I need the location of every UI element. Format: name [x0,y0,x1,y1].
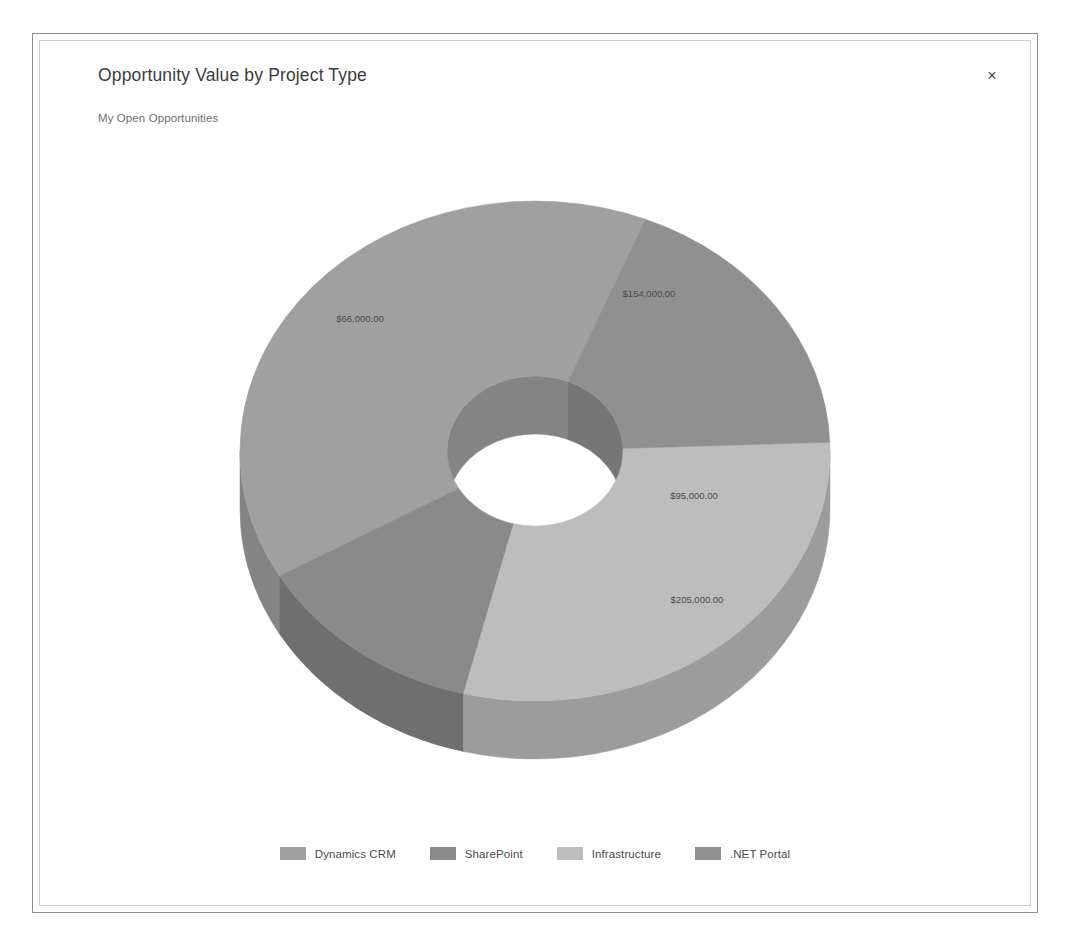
dialog-inner-frame: Opportunity Value by Project Type × My O… [39,40,1031,906]
pie-slice-label: $66,000.00 [336,313,384,324]
doughnut-chart: $205,000.00$66,000.00$154,000.00$95,000.… [40,137,1030,795]
legend-swatch-icon [280,847,306,860]
dialog-window: Opportunity Value by Project Type × My O… [32,33,1038,913]
legend-item-label: .NET Portal [730,848,790,860]
chart-legend: Dynamics CRMSharePointInfrastructure.NET… [40,847,1030,860]
legend-swatch-icon [695,847,721,860]
legend-swatch-icon [557,847,583,860]
dialog-header: Opportunity Value by Project Type × My O… [40,41,1030,127]
legend-item[interactable]: Dynamics CRM [280,847,396,860]
legend-item-label: Infrastructure [592,848,661,860]
close-icon[interactable]: × [979,63,1005,89]
page-title: Opportunity Value by Project Type [98,65,367,86]
legend-item-label: SharePoint [465,848,523,860]
legend-item[interactable]: Infrastructure [557,847,661,860]
pie-slice-label: $205,000.00 [671,594,724,605]
pie-slice-label: $154,000.00 [623,288,676,299]
pie-slice[interactable] [464,442,830,701]
doughnut-chart-svg: $205,000.00$66,000.00$154,000.00$95,000.… [225,166,845,766]
legend-item[interactable]: .NET Portal [695,847,790,860]
chart-subtitle: My Open Opportunities [98,112,218,124]
pie-slice-label: $95,000.00 [670,490,718,501]
legend-swatch-icon [430,847,456,860]
legend-item[interactable]: SharePoint [430,847,523,860]
legend-item-label: Dynamics CRM [315,848,396,860]
chart-slices [240,201,830,701]
